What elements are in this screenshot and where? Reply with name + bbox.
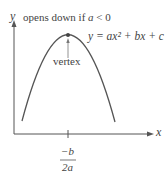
x-axis-arrow-icon	[147, 132, 154, 137]
tick-denominator: 2a	[62, 161, 73, 172]
opens-down-note: opens down if a < 0	[23, 11, 111, 23]
y-axis-label: y	[10, 9, 15, 24]
note-rel: < 0	[94, 11, 111, 23]
parabola-curve	[22, 35, 115, 122]
vertex-pointer-arrow-icon	[66, 38, 69, 43]
vertex-label: vertex	[53, 55, 80, 67]
tick-numerator: −b	[61, 145, 74, 157]
parabola-diagram	[0, 0, 168, 172]
note-text: opens down if	[23, 11, 88, 23]
x-axis-label: x	[156, 125, 161, 140]
vertex-point	[66, 33, 70, 37]
equation-label: y = ax² + bx + c	[88, 30, 164, 42]
